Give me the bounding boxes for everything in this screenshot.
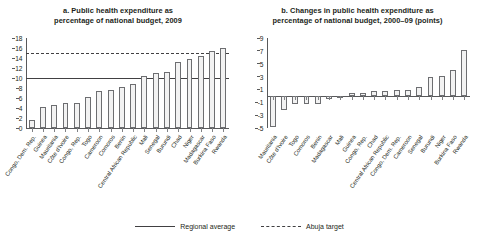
chart-b-ytick-mark <box>257 63 260 64</box>
chart-b-ytick-label: 9 <box>260 35 267 42</box>
chart-b-ytick-label: 1 <box>260 86 267 93</box>
chart-b-x-tick <box>318 96 319 100</box>
chart-b-x-tick <box>273 96 274 100</box>
legend-swatch-solid-line-icon <box>135 226 175 227</box>
chart-b-ytick-mark <box>257 50 260 51</box>
chart-a-ytick-label: 14 <box>15 55 26 62</box>
chart-b-x-tick <box>352 96 353 100</box>
chart-b-x-tick <box>419 96 420 100</box>
chart-a-ytick-mark <box>12 78 15 79</box>
chart-a-ytick-label: 2 <box>19 115 26 122</box>
legend-swatch-dashed-line-icon <box>261 226 301 227</box>
chart-b-x-tick <box>464 96 465 100</box>
chart-b-ytick-label: -3 <box>258 112 267 119</box>
chart-a-ytick-mark <box>12 48 15 49</box>
chart-a-bar <box>198 56 204 128</box>
chart-a-ytick-label: 4 <box>19 105 26 112</box>
chart-b-bar <box>416 87 422 96</box>
chart-b-x-tick <box>397 96 398 100</box>
chart-b-x-tick <box>295 96 296 100</box>
chart-a-bar <box>40 107 46 128</box>
chart-b-title-line-1: b. Changes in public health expenditure … <box>236 6 479 16</box>
chart-b-x-label-group: MauritaniaCôte d'IvoireTogoComorosBeninM… <box>267 128 470 198</box>
chart-a-bar <box>63 103 69 128</box>
chart-a-bar <box>51 105 57 129</box>
legend-label: Abuja target <box>306 222 344 231</box>
chart-b-x-tick <box>374 96 375 100</box>
chart-a-bar <box>153 73 159 129</box>
chart-b-ytick-label: 7 <box>260 47 267 54</box>
legend-item-abuja-target: Abuja target <box>261 222 344 231</box>
chart-a-bar <box>164 72 170 129</box>
chart-a-ytick-label: 12 <box>15 65 26 72</box>
chart-b-ytick-mark <box>255 102 258 103</box>
chart-a-y-axis <box>26 38 27 128</box>
chart-a-ytick-mark <box>16 88 19 89</box>
chart-a-ytick-label: 18 <box>15 35 26 42</box>
chart-a-bar <box>209 51 215 129</box>
chart-b-title-line-2: percentage of national budget, 2000–09 (… <box>236 16 479 26</box>
chart-a-reference-line-abuja-target <box>26 53 229 54</box>
chart-b-x-tick <box>340 96 341 100</box>
chart-b-ytick-mark <box>257 89 260 90</box>
chart-b-ytick-label: -1 <box>258 99 267 106</box>
chart-a-title: a. Public health expenditure as percenta… <box>0 6 236 25</box>
chart-a-ytick-mark <box>16 98 19 99</box>
chart-a-bar <box>96 91 102 129</box>
chart-a-ytick-mark <box>12 58 15 59</box>
chart-a-plot-area: 024681012141618Congo, Dem. Rep.GuineaMau… <box>26 38 229 128</box>
chart-b-x-tick <box>453 96 454 100</box>
chart-b-x-tick <box>329 96 330 100</box>
chart-a-ytick-mark <box>16 108 19 109</box>
chart-a-ytick-mark <box>16 128 19 129</box>
chart-a-bar <box>119 87 125 128</box>
chart-a-ytick-label: 8 <box>19 85 26 92</box>
chart-a-title-line-2: percentage of national budget, 2009 <box>0 16 236 26</box>
chart-b-title: b. Changes in public health expenditure … <box>236 6 479 25</box>
chart-b-ytick-label: -5 <box>258 125 267 132</box>
chart-a-ytick-mark <box>16 118 19 119</box>
chart-a-bar <box>175 62 181 128</box>
chart-a-ytick-label: 0 <box>19 125 26 132</box>
chart-b-x-tick <box>408 96 409 100</box>
chart-a-xtick-label: Chad <box>170 134 183 149</box>
chart-b-x-tick <box>284 96 285 100</box>
chart-b-x-tick <box>385 96 386 100</box>
chart-a-ytick-label: 6 <box>19 95 26 102</box>
chart-a-x-label-group: Congo, Dem. Rep.GuineaMauritaniaCôte d'I… <box>26 128 229 198</box>
chart-a-ytick-mark <box>12 38 15 39</box>
chart-b-ytick-mark <box>255 128 258 129</box>
chart-a-ytick-mark <box>12 68 15 69</box>
chart-b-plot-area: -5-3-113579MauritaniaCôte d'IvoireTogoCo… <box>267 38 470 128</box>
chart-a-bar <box>108 90 114 129</box>
chart-a-bar <box>130 84 136 129</box>
chart-b-y-axis <box>267 38 268 128</box>
chart-b-bar <box>439 76 445 96</box>
chart-b-ytick-label: 5 <box>260 60 267 67</box>
chart-b-ytick-mark <box>255 115 258 116</box>
chart-b-x-tick <box>306 96 307 100</box>
chart-b-bar <box>450 70 456 96</box>
chart-a-xtick-label: Congo, Dem. Rep. <box>4 134 37 178</box>
chart-panel-b: b. Changes in public health expenditure … <box>236 0 479 200</box>
chart-a-title-line-1: a. Public health expenditure as <box>0 6 236 16</box>
chart-b-bar <box>461 50 467 96</box>
chart-b-x-tick-group <box>267 96 470 101</box>
chart-b-ytick-mark <box>257 38 260 39</box>
chart-a-bar <box>220 48 226 129</box>
chart-b-x-tick <box>431 96 432 100</box>
chart-a-bar <box>85 97 91 128</box>
chart-a-ytick-label: 10 <box>15 75 26 82</box>
chart-a-bar <box>187 59 193 129</box>
chart-a-bar <box>141 76 147 129</box>
legend-item-regional-average: Regional average <box>135 222 235 231</box>
chart-a-ytick-label: 16 <box>15 45 26 52</box>
chart-b-x-tick <box>363 96 364 100</box>
chart-b-bar <box>428 77 434 96</box>
chart-a-bar <box>29 120 35 129</box>
chart-a-bar <box>74 103 80 129</box>
chart-b-ytick-label: 3 <box>260 73 267 80</box>
figure-container: a. Public health expenditure as percenta… <box>0 0 479 243</box>
legend-label: Regional average <box>180 222 235 231</box>
chart-panel-a: a. Public health expenditure as percenta… <box>0 0 236 200</box>
